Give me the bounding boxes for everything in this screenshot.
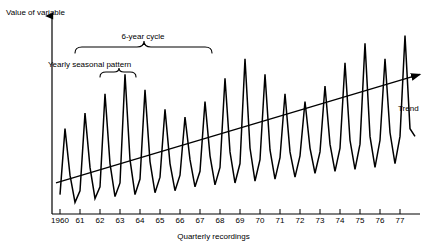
x-tick-label-77: 77 — [380, 216, 420, 225]
trend-line — [56, 74, 420, 183]
x-axis-ticks — [60, 209, 400, 214]
annotation-trend: Trend — [398, 104, 419, 114]
x-axis-label: Quarterly recordings — [0, 232, 427, 242]
time-series-chart — [0, 0, 427, 252]
brace-six-year-cycle — [75, 41, 212, 53]
annotation-yearly-seasonal-pattern: Yearly seasonal pattern — [48, 60, 198, 70]
y-axis-label: Value of variable — [6, 8, 58, 18]
annotation-six-year-cycle: 6-year cycle — [75, 32, 211, 42]
